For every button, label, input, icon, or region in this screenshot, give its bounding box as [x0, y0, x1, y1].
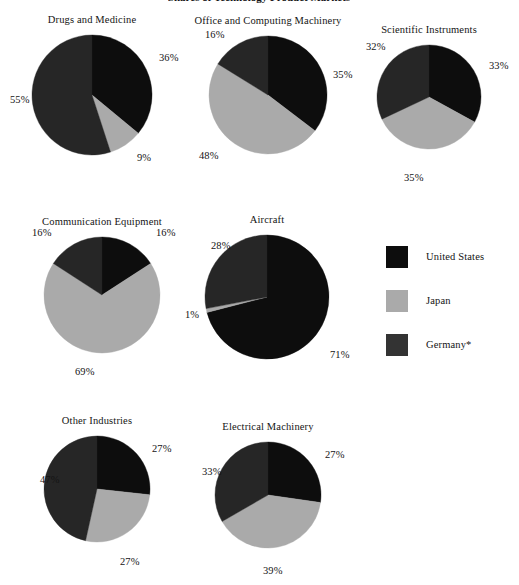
chart-title-0: Drugs and Medicine: [48, 14, 136, 26]
pct-label-5-2: 47%: [40, 474, 60, 486]
pct-label-2-2: 32%: [366, 41, 386, 53]
pie-svg-5: [42, 434, 152, 544]
legend-label-0: United States: [426, 251, 484, 263]
pct-label-0-0: 36%: [159, 52, 179, 64]
pie-chart-3: [42, 235, 162, 355]
pie-slice-5-2: [44, 436, 97, 541]
legend-label-2: Germany*: [426, 339, 472, 351]
pie-chart-5: [42, 434, 152, 544]
pct-label-5-1: 27%: [120, 556, 140, 568]
pct-label-1-2: 16%: [205, 29, 225, 41]
chart-title-5: Other Industries: [62, 415, 132, 427]
pct-label-3-2: 16%: [32, 227, 52, 239]
legend-swatch-japan: [386, 290, 408, 312]
pct-label-4-2: 28%: [211, 240, 231, 252]
chart-title-3: Communication Equipment: [42, 216, 162, 228]
pie-svg-6: [213, 440, 323, 550]
legend-swatch-united-states: [386, 246, 408, 268]
pct-label-6-0: 27%: [325, 449, 345, 461]
legend-item-0[interactable]: United States: [386, 246, 516, 290]
chart-title-4: Aircraft: [250, 214, 284, 226]
pct-label-3-0: 16%: [156, 227, 176, 239]
legend-item-2[interactable]: Germany*: [386, 334, 516, 378]
pie-svg-0: [30, 33, 154, 157]
pct-label-3-1: 69%: [75, 366, 95, 378]
figure-title: Shares of Technology Product Markets: [168, 0, 350, 3]
legend-swatch-germany: [386, 334, 408, 356]
chart-title-1: Office and Computing Machinery: [195, 15, 342, 27]
pie-chart-2: [375, 43, 483, 151]
legend: United StatesJapanGermany*: [386, 246, 516, 378]
pie-svg-3: [42, 235, 162, 355]
pct-label-1-0: 35%: [333, 69, 353, 81]
pct-label-5-0: 27%: [152, 443, 172, 455]
pct-label-0-2: 55%: [10, 94, 30, 106]
pct-label-2-0: 33%: [489, 60, 509, 72]
pct-label-1-1: 48%: [199, 150, 219, 162]
pie-svg-4: [203, 233, 331, 361]
chart-title-6: Electrical Machinery: [222, 421, 313, 433]
pct-label-4-1: 1%: [185, 309, 199, 321]
pie-svg-2: [375, 43, 483, 151]
pct-label-2-1: 35%: [404, 172, 424, 184]
pie-chart-6: [213, 440, 323, 550]
chart-title-2: Scientific Instruments: [381, 24, 477, 36]
legend-item-1[interactable]: Japan: [386, 290, 516, 334]
pie-slice-5-0: [97, 436, 150, 495]
pie-chart-figure: Shares of Technology Product Markets Dru…: [0, 0, 519, 585]
legend-label-1: Japan: [426, 295, 451, 307]
pie-chart-4: [203, 233, 331, 361]
pie-svg-1: [207, 34, 329, 156]
pct-label-4-0: 71%: [330, 349, 350, 361]
pct-label-6-1: 39%: [263, 565, 283, 577]
pie-chart-1: [207, 34, 329, 156]
pie-chart-0: [30, 33, 154, 157]
pie-slice-6-0: [268, 442, 321, 503]
pct-label-0-1: 9%: [137, 152, 151, 164]
pct-label-6-2: 33%: [202, 466, 222, 478]
